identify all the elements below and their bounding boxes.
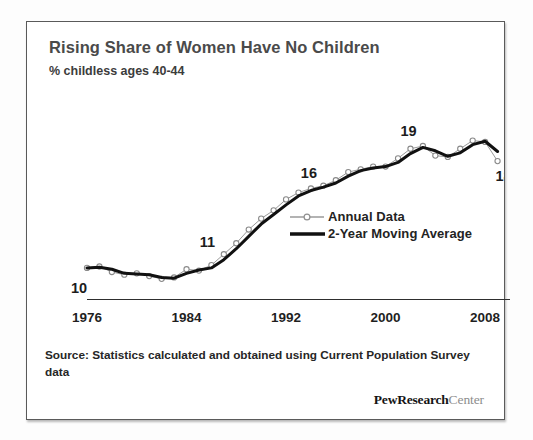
x-axis-tick-2000: 2000 [371,310,401,325]
x-axis-tick-1976: 1976 [72,310,102,325]
value-label: 10 [71,280,87,296]
value-label: 11 [200,234,215,250]
data-point-marker [283,197,288,202]
x-axis-tick-labels: 19761984199220002008 [27,310,504,332]
chart-card: Rising Share of Women Have No Children %… [26,21,505,420]
logo-bold-text: PewResearch [374,392,449,407]
data-point-marker [495,158,500,163]
data-point-marker [408,146,413,151]
data-point-marker [433,153,438,158]
plot-area: 1011161918 [27,102,504,302]
chart-subtitle: % childless ages 40-44 [49,64,185,78]
legend-label-moving-average: 2-Year Moving Average [328,226,472,241]
legend-swatch-annual-data [289,210,325,224]
legend-label-annual-data: Annual Data [328,209,405,224]
x-axis-line [87,299,510,300]
source-note: Source: Statistics calculated and obtain… [45,347,485,381]
line-chart-svg: 1011161918 [27,102,504,302]
screenshot-canvas: Rising Share of Women Have No Children %… [0,0,533,440]
data-point-marker [259,216,264,221]
legend-item-annual-data: Annual Data [289,208,489,225]
x-axis-tick-1984: 1984 [171,310,201,325]
data-point-marker [470,138,475,143]
data-point-marker [246,227,251,232]
data-point-marker [221,252,226,257]
pew-research-center-logo: PewResearchCenter [374,392,484,408]
value-label: 16 [301,165,317,181]
legend-item-moving-average: 2-Year Moving Average [289,225,489,242]
page-title: Rising Share of Women Have No Children [49,38,380,57]
logo-light-text: Center [449,392,484,407]
chart-legend: Annual Data 2-Year Moving Average [289,208,489,242]
value-label: 18 [495,168,504,184]
legend-swatch-moving-average [289,227,325,241]
x-axis-tick-2008: 2008 [470,310,500,325]
x-axis-tick-1992: 1992 [271,310,301,325]
data-point-marker [184,267,189,272]
value-label: 19 [400,123,416,139]
